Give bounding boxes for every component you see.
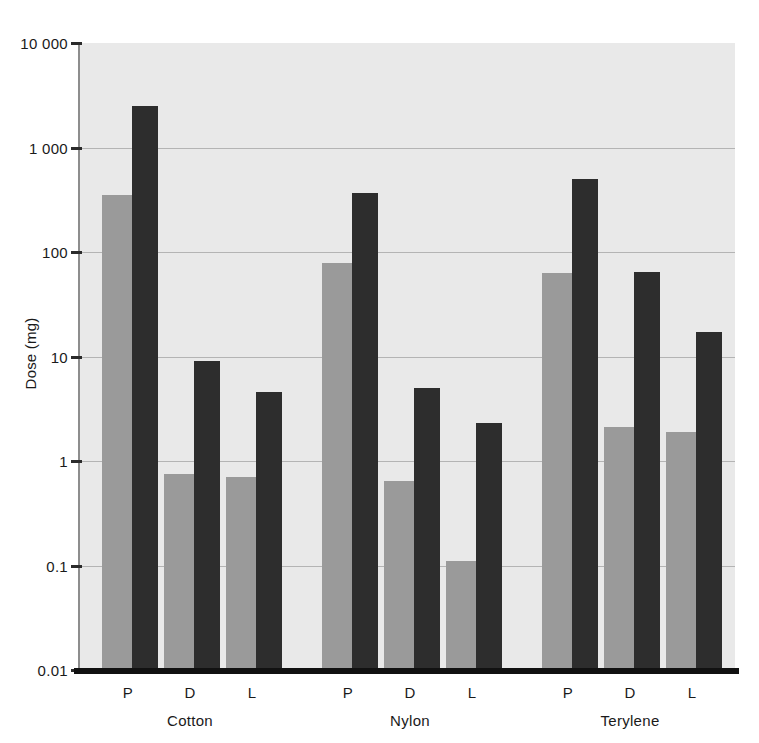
bar-chart-figure: Dose (mg) 10 0001 0001001010.10.01 PDLPD…	[0, 0, 759, 743]
bar-gray	[102, 195, 132, 670]
x-axis-sub-label: L	[688, 684, 697, 701]
x-axis-sub-label: L	[248, 684, 257, 701]
bar-dark	[572, 179, 598, 670]
x-axis-sub-label: D	[404, 684, 415, 701]
bar-gray	[604, 427, 634, 670]
x-axis-sub-label: L	[468, 684, 477, 701]
bar-gray	[164, 474, 194, 670]
y-axis-tick-label: 0.1	[46, 557, 68, 574]
x-axis-sub-label: P	[563, 684, 573, 701]
bar-dark	[414, 388, 440, 670]
x-axis-baseline	[74, 668, 739, 674]
y-axis-tick-label: 1	[59, 453, 68, 470]
y-axis-tick	[71, 460, 82, 463]
y-axis-tick	[71, 147, 82, 150]
x-axis-group-label: Nylon	[390, 712, 430, 729]
bar-dark	[634, 272, 660, 670]
bar-dark	[132, 106, 158, 670]
y-axis-tick	[71, 356, 82, 359]
y-axis-tick-label: 10	[51, 348, 68, 365]
y-axis-tick-labels: 10 0001 0001001010.10.01	[0, 43, 78, 670]
x-axis-sub-label: P	[123, 684, 133, 701]
y-axis-tick-label: 1 000	[29, 139, 68, 156]
x-axis-sub-label: P	[343, 684, 353, 701]
bar-dark	[696, 332, 722, 670]
bar-gray	[384, 481, 414, 670]
bar-gray	[226, 477, 256, 670]
bar-dark	[194, 361, 220, 670]
y-axis-tick	[71, 251, 82, 254]
y-axis-tick-label: 0.01	[38, 662, 68, 679]
bar-gray	[446, 561, 476, 670]
bar-gray	[666, 432, 696, 670]
x-axis-group-label: Cotton	[167, 712, 213, 729]
bar-dark	[476, 423, 502, 670]
plot-inner	[80, 43, 735, 670]
bar-gray	[322, 263, 352, 670]
x-axis-sub-label: D	[184, 684, 195, 701]
y-axis-tick	[71, 565, 82, 568]
bar-dark	[352, 193, 378, 670]
bar-gray	[542, 273, 572, 670]
gridline	[80, 148, 735, 149]
x-axis-sub-label: D	[624, 684, 635, 701]
y-axis-tick-label: 10 000	[20, 35, 68, 52]
gridline	[80, 252, 735, 253]
plot-area	[78, 43, 735, 670]
x-axis-group-label: Terylene	[600, 712, 659, 729]
y-axis-tick	[71, 42, 82, 45]
y-axis-tick-label: 100	[42, 244, 68, 261]
bar-dark	[256, 392, 282, 670]
